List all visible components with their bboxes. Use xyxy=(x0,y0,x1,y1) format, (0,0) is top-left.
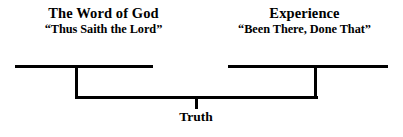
left-vertical-connector xyxy=(75,65,78,99)
truth-convergence-diagram: The Word of God “Thus Saith the Lord” Ex… xyxy=(0,0,403,137)
left-source-subheading: “Thus Saith the Lord” xyxy=(0,23,207,36)
left-source-heading: The Word of God xyxy=(0,6,207,22)
center-stem-connector xyxy=(195,96,198,109)
left-horizontal-rule xyxy=(15,65,153,68)
right-vertical-connector xyxy=(314,65,317,99)
right-source-heading: Experience xyxy=(206,6,403,22)
conclusion-label: Truth xyxy=(146,109,246,125)
left-source-label: The Word of God “Thus Saith the Lord” xyxy=(0,6,207,36)
right-source-subheading: “Been There, Done That” xyxy=(206,23,403,36)
right-source-label: Experience “Been There, Done That” xyxy=(206,6,403,36)
right-horizontal-rule xyxy=(228,65,388,68)
